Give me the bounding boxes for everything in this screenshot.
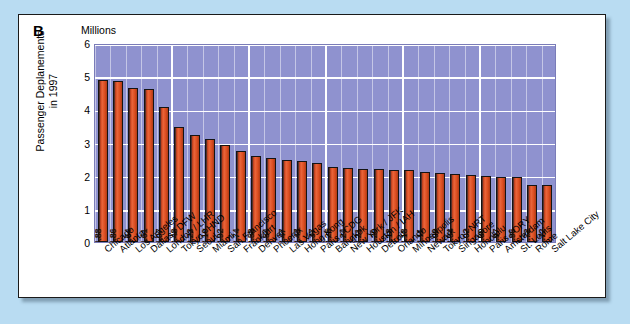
bar-slot: 4.61 [141,45,156,242]
y-axis-tick-0: 0 [84,237,90,249]
y-axis-tick-1: 1 [84,204,90,216]
bar-slot: 4.07 [156,45,171,242]
bar-slot: 2.43 [294,45,309,242]
bar-slot: 1.97 [494,45,509,242]
bar-fill [129,89,137,241]
bar-slot: 2.21 [356,45,371,242]
y-axis-tick-4: 4 [84,104,90,116]
bar-series: 4.884.864.644.614.073.483.233.102.922.74… [95,45,555,242]
y-axis-tick-2: 2 [84,171,90,183]
bar-slot: 4.64 [126,45,141,242]
y-axis-tick-5: 5 [84,71,90,83]
bar-slot: 2.04 [448,45,463,242]
bar-slot: 1.72 [524,45,539,242]
bar[interactable]: 4.86 [113,81,123,242]
bar-slot: 2.47 [279,45,294,242]
bar-slot: 2.74 [233,45,248,242]
bar-fill [145,90,153,241]
bar-fill [221,146,229,241]
bar-slot: 2.37 [310,45,325,242]
bar-slot: 2.24 [340,45,355,242]
y-axis-title: Passenger Deplanements in 1997 [33,1,61,181]
y-axis-tick-6: 6 [84,38,90,50]
y-axis-title-line-2: in 1997 [47,74,60,108]
y-axis-title-line-1: Passenger Deplanements [34,31,47,152]
bar-value-label: 4.88 [94,229,103,243]
bar-slot: 2.25 [325,45,340,242]
x-axis-label: Salt Lake City [549,208,601,254]
bar-slot: 2.20 [371,45,386,242]
bar-slot: 2.58 [248,45,263,242]
bar-slot: 4.86 [110,45,125,242]
bar-slot: 4.88 [95,45,110,242]
x-axis-category-labels: ChicagoAtlantaLos AngelesDallas / DFWLon… [94,244,556,324]
bar-slot: 3.48 [172,45,187,242]
bar-slot: 2.11 [417,45,432,242]
plot-area: 4.884.864.644.614.073.483.233.102.922.74… [94,44,556,243]
bar-slot: 1.72 [540,45,555,242]
bar[interactable]: 4.64 [128,88,138,242]
bar[interactable]: 4.61 [144,89,154,242]
bar-fill [114,82,122,241]
bar-slot: 2.02 [463,45,478,242]
y-axis-tick-3: 3 [84,138,90,150]
y-axis-tick-labels: 6543210 [72,44,90,243]
bar-slot: 2.09 [432,45,447,242]
plot-wrapper: 6543210 4.884.864.644.614.073.483.233.10… [94,44,556,243]
bar-fill [99,81,107,241]
y-axis-unit-label: Millions [81,24,116,36]
bar-slot: 1.96 [509,45,524,242]
chart-card: B Millions Passenger Deplanements in 199… [18,14,606,298]
bar[interactable]: 2.92 [220,145,230,242]
bar[interactable]: 4.88 [98,80,108,242]
